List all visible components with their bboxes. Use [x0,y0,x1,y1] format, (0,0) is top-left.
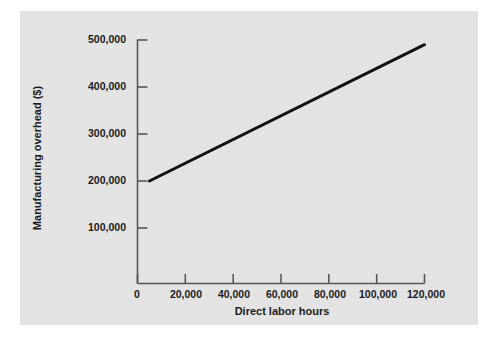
series-line-manufacturing-overhead [149,45,424,181]
y-tick-label-500000: 500,000 [62,33,126,45]
x-tick-label-80000: 80,000 [314,288,346,300]
y-axis-title: Manufacturing overhead ($) [31,63,43,253]
y-tick-label-400000: 400,000 [62,80,126,92]
x-tick-label-20000: 20,000 [170,288,202,300]
x-tick-label-100000: 100,000 [359,288,397,300]
x-tick-label-0: 0 [134,288,140,300]
chart-figure: 500,000 400,000 300,000 200,000 100,000 … [0,0,495,339]
x-tick-label-120000: 120,000 [407,288,445,300]
y-tick-label-100000: 100,000 [62,221,126,233]
x-axis-ticks [138,274,425,284]
y-axis-ticks [138,40,148,228]
x-axis-title: Direct labor hours [137,305,427,317]
y-tick-label-200000: 200,000 [62,174,126,186]
x-tick-label-40000: 40,000 [218,288,250,300]
y-tick-label-300000: 300,000 [62,127,126,139]
x-tick-label-60000: 60,000 [266,288,298,300]
